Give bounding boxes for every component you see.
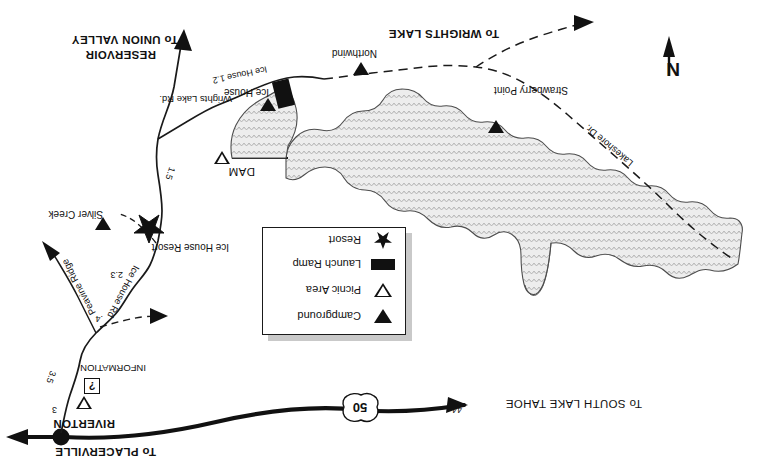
campground-icon-silver-creek xyxy=(95,217,111,230)
picnic-area-icon-riverton xyxy=(76,396,92,409)
campground-icon-strawberry-point xyxy=(488,120,504,133)
north-arrow-label: N xyxy=(666,60,680,79)
resort-symbol xyxy=(134,215,164,243)
place-label-ice-house-resort: Ice House Resort xyxy=(152,242,229,252)
legend-picnic-area-icon xyxy=(361,284,405,298)
legend-box: Campground Picnic Area Launch Ramp Resor… xyxy=(262,227,406,335)
legend-row-campground: Campground xyxy=(261,305,405,328)
road-to-wrights-lake xyxy=(476,15,594,67)
highway-50-east-arrowhead xyxy=(6,429,28,445)
legend-row-picnic-area: Picnic Area xyxy=(261,279,405,302)
north-arrow-head xyxy=(663,36,675,57)
legend-label-resort: Resort xyxy=(329,235,361,247)
legend-label-campground: Campground xyxy=(297,311,361,323)
legend-campground-icon xyxy=(361,310,405,324)
road-label-wrights-lake-rd: Wrights Lake Rd. xyxy=(159,94,232,105)
mileage-3: 3 xyxy=(52,405,57,414)
to-wrights-lake-arrowhead xyxy=(574,15,594,31)
destination-south-lake-tahoe: To SOUTH LAKE TAHOE xyxy=(505,398,642,410)
star-icon xyxy=(134,215,164,243)
place-label-information: INFORMATION xyxy=(80,364,146,374)
picnic-area-icon-dam xyxy=(214,151,230,164)
highway-marker-44: 44 xyxy=(452,405,462,414)
campground-icon-ice-house xyxy=(260,98,276,111)
place-label-riverton: RIVERTON xyxy=(53,418,115,430)
legend-row-resort: Resort xyxy=(261,229,405,252)
mileage-point-4: .4 xyxy=(95,314,103,323)
highway-50-line xyxy=(64,405,464,438)
legend-label-picnic-area: Picnic Area xyxy=(306,285,361,297)
road-peavine-ridge xyxy=(42,241,96,333)
shield-50-number: 50 xyxy=(342,400,378,415)
destination-reservoir-line2: RESERVOIR xyxy=(85,49,156,61)
destination-placerville: To PLACERVILLE xyxy=(55,446,156,458)
legend-label-launch-ramp: Launch Ramp xyxy=(293,259,362,271)
map-canvas: 50 44 To PLACERVILLE To SOUTH LAKE TAHOE… xyxy=(0,0,764,469)
place-label-dam: DAM xyxy=(228,166,255,178)
campground-icon-northwind xyxy=(353,62,369,75)
destination-union-valley: To UNION VALLEY xyxy=(72,34,178,46)
legend-resort-icon xyxy=(361,231,405,251)
peavine-ridge-arrowhead xyxy=(42,241,60,261)
destination-wrights-lake: To WRIGHTS LAKE xyxy=(389,28,499,40)
mileage-2-3: 2.3 xyxy=(110,270,123,279)
legend-launch-ramp-icon xyxy=(361,259,405,270)
shield-50-label-wrap: 50 xyxy=(342,395,378,421)
place-label-strawberry-point: Strawberry Point xyxy=(494,85,568,95)
place-label-northwind: Northwind xyxy=(332,48,377,58)
legend-row-launch-ramp: Launch Ramp xyxy=(261,253,405,276)
west-spur-arrowhead xyxy=(150,308,168,324)
information-marker-box: ? xyxy=(84,378,100,394)
peavine-ridge-line xyxy=(48,247,96,333)
